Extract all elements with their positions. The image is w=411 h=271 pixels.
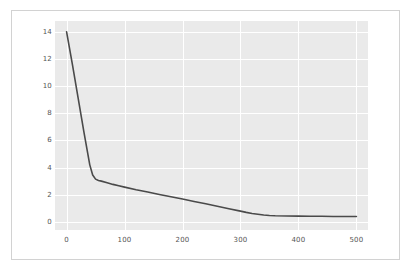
x-tick-label: 100 — [107, 236, 143, 244]
y-tick-label: 10 — [30, 82, 52, 90]
x-tick-label: 300 — [222, 236, 258, 244]
plot-area — [55, 21, 368, 230]
y-tick-label: 12 — [30, 55, 52, 63]
y-axis-tick-labels: 02468101214 — [26, 21, 52, 230]
x-tick-label: 0 — [49, 236, 85, 244]
x-axis-tick-labels: 0100200300400500 — [55, 236, 368, 248]
x-tick-label: 400 — [280, 236, 316, 244]
y-tick-label: 2 — [30, 191, 52, 199]
x-tick-label: 500 — [338, 236, 374, 244]
y-tick-label: 0 — [30, 218, 52, 226]
y-tick-label: 4 — [30, 164, 52, 172]
curve-path — [67, 32, 357, 217]
line-series-curve — [55, 21, 368, 230]
y-tick-label: 6 — [30, 136, 52, 144]
y-tick-label: 14 — [30, 28, 52, 36]
x-tick-label: 200 — [165, 236, 201, 244]
y-tick-label: 8 — [30, 109, 52, 117]
chart-figure: 02468101214 0100200300400500 — [0, 0, 411, 271]
